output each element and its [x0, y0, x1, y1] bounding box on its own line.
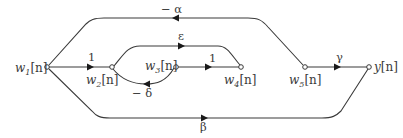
label-y: y[n]: [373, 60, 398, 74]
node-w4: [239, 65, 244, 70]
signal-flow-graph: w1[n] w2[n] w3[n] w4[n] w5[n] y[n] 1 ε 1…: [0, 0, 403, 138]
arrow-right-icon: [178, 43, 185, 50]
arrow-right-icon: [334, 64, 341, 71]
gain-beta: β: [200, 120, 207, 134]
node-w2: [110, 65, 115, 70]
gain-epsilon: ε: [178, 29, 184, 43]
node-y: [367, 65, 372, 70]
gain-w1-w2: 1: [88, 50, 95, 64]
node-w5: [303, 65, 308, 70]
label-w1: w1[n]: [15, 61, 47, 77]
label-w5: w5[n]: [289, 73, 321, 89]
gain-alpha: − α: [161, 2, 182, 16]
label-w4: w4[n]: [224, 73, 256, 89]
gain-w3-w4: 1: [209, 51, 216, 65]
arrow-right-icon: [87, 64, 94, 71]
label-w3: w3[n]: [145, 59, 177, 75]
gain-delta: − δ: [132, 86, 152, 100]
label-w2: w2[n]: [86, 73, 118, 89]
gain-gamma: γ: [336, 50, 343, 64]
